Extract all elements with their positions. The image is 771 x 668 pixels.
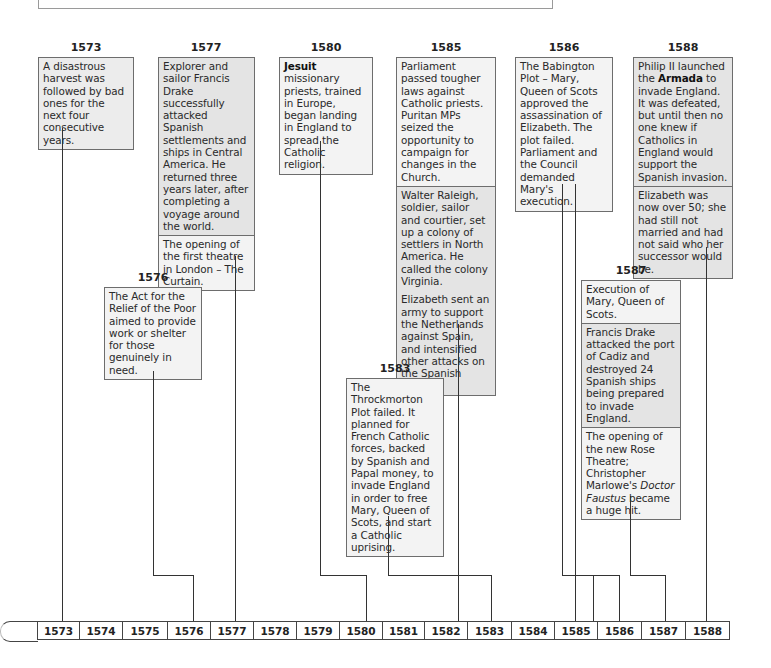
timeline-year-1573: 1573 [37, 621, 80, 640]
previous-section-box [38, 0, 553, 9]
connector-1580-a [320, 141, 321, 576]
connector-1583-b [388, 575, 492, 576]
connector-1586-a [562, 184, 563, 576]
year-heading-1573: 1573 [38, 41, 134, 54]
connector-1583-a [388, 516, 389, 576]
event-entry: Jesuit missionary priests, trained in Eu… [280, 58, 372, 174]
connector-1586-c [593, 575, 594, 621]
event-box-1576: The Act for the Relief of the Poor aimed… [104, 287, 202, 380]
timeline-year-1584: 1584 [512, 621, 555, 640]
event-box-1580: Jesuit missionary priests, trained in Eu… [279, 57, 373, 175]
timeline-year-1580: 1580 [340, 621, 383, 640]
event-entry: Walter Raleigh, soldier, sailor and cour… [397, 186, 495, 290]
timeline-year-1582: 1582 [425, 621, 468, 640]
year-heading-1585: 1585 [396, 41, 496, 54]
connector-1587-b [630, 575, 666, 576]
event-box-1583: The Throckmorton Plot failed. It planned… [346, 378, 444, 557]
connector-1586-b [593, 575, 620, 576]
timeline-year-1583: 1583 [468, 621, 512, 640]
timeline-year-1581: 1581 [383, 621, 425, 640]
timeline-year-1577: 1577 [211, 621, 254, 640]
event-entry: Execution of Mary, Queen of Scots. [582, 281, 680, 323]
year-heading-1580: 1580 [279, 41, 373, 54]
event-entry: Philip II launched the Armada to invade … [634, 58, 732, 186]
connector-1586-e [562, 575, 593, 576]
event-entry: A disastrous harvest was followed by bad… [39, 58, 133, 149]
timeline-year-1579: 1579 [297, 621, 340, 640]
event-entry: The Throckmorton Plot failed. It planned… [347, 379, 443, 556]
year-heading-1577: 1577 [158, 41, 254, 54]
event-box-1585: Parliament passed tougher laws against C… [396, 57, 496, 396]
event-box-1588: Philip II launched the Armada to invade … [633, 57, 733, 279]
timeline-year-1576: 1576 [168, 621, 211, 640]
timeline-year-1575: 1575 [123, 621, 168, 640]
connector-1586-d [619, 575, 620, 621]
timeline-bar: 1573157415751576157715781579158015811582… [0, 621, 730, 641]
year-heading-1576: 1576 [104, 271, 202, 284]
timeline-year-1587: 1587 [642, 621, 686, 640]
year-heading-1588: 1588 [633, 41, 733, 54]
event-entry: Francis Drake attacked the port of Cadiz… [582, 323, 680, 427]
event-box-1577: Explorer and sailor Francis Drake succes… [158, 57, 255, 291]
connector-1585-box [458, 324, 459, 621]
event-box-1573: A disastrous harvest was followed by bad… [38, 57, 134, 150]
event-entry: Explorer and sailor Francis Drake succes… [159, 58, 254, 235]
year-heading-1587: 1587 [581, 264, 681, 277]
connector-1588 [706, 247, 707, 621]
connector-1576-c [193, 575, 194, 621]
timeline-year-1586: 1586 [598, 621, 642, 640]
connector-1580-c [366, 575, 367, 621]
timeline-year-1578: 1578 [254, 621, 297, 640]
timeline-year-1574: 1574 [80, 621, 123, 640]
event-entry: The Babington Plot – Mary, Queen of Scot… [516, 58, 612, 211]
connector-1583-c [491, 575, 492, 621]
event-entry: Parliament passed tougher laws against C… [397, 58, 495, 186]
timeline-year-1588: 1588 [686, 621, 730, 640]
year-heading-1583: 1583 [346, 362, 444, 375]
event-entry: The Act for the Relief of the Poor aimed… [105, 288, 201, 379]
connector-1576-b [153, 575, 194, 576]
connector-1576-a [153, 371, 154, 576]
event-box-1587: Execution of Mary, Queen of Scots. Franc… [581, 280, 681, 520]
connector-1585 [575, 184, 576, 621]
connector-1587-c [665, 575, 666, 621]
timeline-lead [0, 621, 38, 642]
connector-1580-b [320, 575, 367, 576]
event-box-1586: The Babington Plot – Mary, Queen of Scot… [515, 57, 613, 212]
timeline-year-1585: 1585 [555, 621, 598, 640]
connector-1587-a [630, 496, 631, 576]
year-heading-1586: 1586 [515, 41, 613, 54]
connector-1577 [235, 256, 236, 621]
connector-1573 [62, 128, 63, 621]
